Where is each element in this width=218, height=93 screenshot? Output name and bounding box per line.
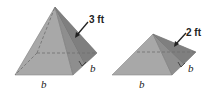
base-front-label: b xyxy=(139,78,145,90)
base-side-label: b xyxy=(90,62,96,74)
pyramid-large: 3 ft b b xyxy=(15,7,105,90)
diagram-canvas: 3 ft b b 2 ft b b xyxy=(0,0,218,93)
pyramid-small: 2 ft b b xyxy=(112,27,202,90)
base-front-label: b xyxy=(41,78,47,90)
slant-height-label: 3 ft xyxy=(89,14,105,25)
arrow-pointer xyxy=(77,22,88,35)
slant-height-label: 2 ft xyxy=(186,27,202,38)
arrow-pointer xyxy=(176,33,186,44)
base-side-label: b xyxy=(188,62,194,74)
